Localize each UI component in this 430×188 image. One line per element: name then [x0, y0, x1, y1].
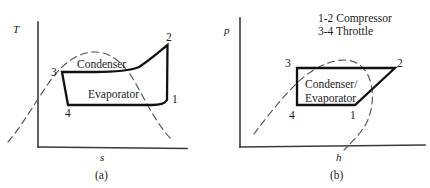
state-label-4-a: 4 [65, 107, 71, 119]
state-label-3-a: 3 [51, 66, 57, 78]
note-throttle: 3-4 Throttle [318, 25, 373, 37]
state-label-1-a: 1 [172, 93, 178, 105]
figure-root: 2 1 3 4 Condenser Evaporator T s (a) 3 [0, 0, 430, 188]
state-label-2-a: 2 [166, 31, 172, 43]
x-axis-line-b [240, 145, 425, 147]
x-axis-label-b: h [336, 151, 342, 163]
y-axis-label-a: T [13, 23, 20, 35]
y-axis-label-b: p [223, 24, 230, 36]
caption-b: (b) [330, 169, 344, 182]
region-label-evaporator-b: Evaporator [305, 92, 356, 105]
state-label-4-b: 4 [289, 109, 295, 121]
state-label-2-b: 2 [397, 57, 403, 69]
region-label-condenser-b: Condenser/ [305, 78, 358, 90]
x-axis-label-a: s [100, 151, 104, 163]
ts-diagram-canvas: 2 1 3 4 Condenser Evaporator T s (a) [0, 0, 215, 188]
state-label-1-b: 1 [350, 109, 356, 121]
region-label-condenser-a: Condenser [77, 58, 126, 70]
panel-ts-diagram: 2 1 3 4 Condenser Evaporator T s (a) [0, 0, 215, 188]
ph-diagram-canvas: 3 2 4 1 Condenser/ Evaporator 1-2 Compre… [215, 0, 430, 188]
note-compressor: 1-2 Compressor [318, 12, 392, 25]
panel-ph-diagram: 3 2 4 1 Condenser/ Evaporator 1-2 Compre… [215, 0, 430, 188]
region-label-evaporator-a: Evaporator [88, 88, 139, 101]
state-label-3-b: 3 [285, 57, 291, 69]
caption-a: (a) [95, 169, 108, 182]
x-axis-line-a [38, 147, 187, 149]
